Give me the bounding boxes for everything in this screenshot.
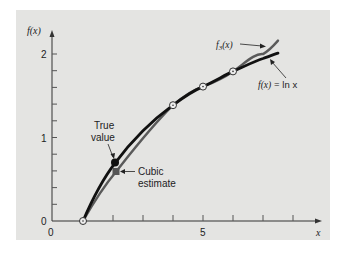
x-tick-label-5: 5 bbox=[200, 227, 206, 238]
ln-label-fx: f(x) = bbox=[258, 80, 282, 91]
cubic-estimate-label-line1: Cubic bbox=[138, 166, 164, 177]
true-value-marker bbox=[111, 159, 119, 167]
x-axis-arrow-icon bbox=[315, 219, 322, 224]
y-tick-label-1: 1 bbox=[41, 133, 47, 144]
ln-arrow bbox=[272, 62, 286, 78]
y-tick-label-0: 0 bbox=[41, 216, 47, 227]
f3-label: f3(x) bbox=[216, 40, 233, 52]
data-point-dots bbox=[82, 71, 234, 222]
true-value-label-line1: True bbox=[94, 120, 115, 131]
y-tick-label-2: 2 bbox=[41, 49, 47, 60]
x-tick-label-0: 0 bbox=[48, 227, 54, 238]
cubic-estimate-arrowhead-icon bbox=[120, 169, 125, 174]
ln-label-lnx: ln x bbox=[282, 79, 297, 90]
x-ticks bbox=[113, 215, 293, 221]
true-value-arrowhead-icon bbox=[111, 153, 116, 159]
f3-label-x: (x) bbox=[222, 40, 233, 51]
ln-label: f(x) = ln x bbox=[258, 79, 297, 91]
f3-arrowhead-icon bbox=[260, 44, 266, 49]
cubic-estimate-marker bbox=[113, 168, 120, 175]
y-axis-arrow-icon bbox=[50, 30, 55, 37]
y-axis-label: f(x) bbox=[27, 25, 42, 37]
x-axis-label: x bbox=[315, 227, 321, 238]
data-points bbox=[80, 68, 237, 225]
f3-arrow bbox=[240, 44, 262, 46]
chart-svg: 2 1 0 0 5 x f(x) True value Cubic estima… bbox=[0, 0, 350, 260]
y-ticks bbox=[52, 54, 57, 204]
cubic-estimate-label-line2: estimate bbox=[138, 178, 176, 189]
true-value-label-line2: value bbox=[91, 132, 115, 143]
